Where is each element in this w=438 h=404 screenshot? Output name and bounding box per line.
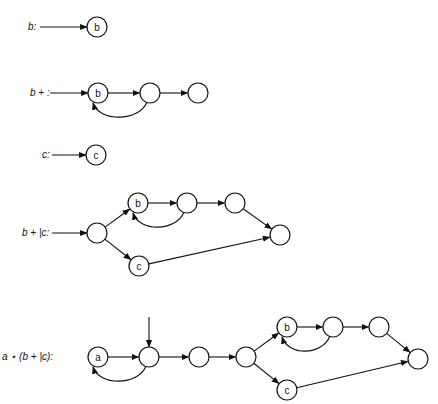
state-node <box>177 193 197 213</box>
state-node <box>369 317 389 337</box>
state-node <box>270 225 290 245</box>
state-label: c <box>137 261 142 272</box>
state-node <box>225 193 245 213</box>
transition-arrow <box>254 363 279 383</box>
state-circle <box>189 347 209 367</box>
state-circle <box>408 349 428 369</box>
loop-back-arrow <box>133 212 184 227</box>
state-label: b <box>95 88 101 99</box>
state-node: c <box>277 380 297 400</box>
transition-arrow <box>105 209 129 227</box>
diagram-b-plus: b + :b <box>30 83 208 117</box>
diagram-label: c: <box>42 149 50 160</box>
diagram-b-plus-or-c: b + |c:bc <box>22 193 290 276</box>
diagram-b: b:b <box>28 17 107 37</box>
state-label: a <box>95 352 101 363</box>
state-circle <box>177 193 197 213</box>
diagrams-root: b:bb + :bc:cb + |c:bca ⋆ (b + |c):abc <box>2 17 428 400</box>
diagram-label: b + : <box>30 87 50 98</box>
transition-arrow <box>149 237 270 264</box>
state-node <box>236 347 256 367</box>
state-circle <box>236 347 256 367</box>
state-circle <box>369 317 389 337</box>
transition-arrow <box>297 361 408 387</box>
state-node <box>140 83 160 103</box>
state-circle <box>323 317 343 337</box>
state-node: b <box>128 193 148 213</box>
state-node <box>87 223 107 243</box>
state-node: b <box>277 317 297 337</box>
state-circle <box>140 83 160 103</box>
state-label: c <box>94 150 99 161</box>
state-node <box>189 347 209 367</box>
state-node <box>139 347 159 367</box>
state-circle <box>139 347 159 367</box>
state-label: b <box>94 22 100 33</box>
state-node <box>323 317 343 337</box>
diagram-label: b + |c: <box>22 227 50 238</box>
diagram-c: c:c <box>42 145 106 165</box>
state-node: c <box>86 145 106 165</box>
state-circle <box>270 225 290 245</box>
state-circle <box>225 193 245 213</box>
transition-arrow <box>387 333 410 352</box>
transition-arrow <box>105 239 131 259</box>
nfa-diagram-canvas: b:bb + :bc:cb + |c:bca ⋆ (b + |c):abc <box>0 0 438 404</box>
state-label: b <box>284 322 290 333</box>
loop-back-arrow <box>93 102 147 117</box>
diagram-a-star-b-plus-or-c: a ⋆ (b + |c):abc <box>2 317 428 400</box>
state-node: a <box>88 347 108 367</box>
state-label: b <box>135 198 141 209</box>
state-node: b <box>88 83 108 103</box>
transition-arrow <box>254 333 278 351</box>
diagram-label: b: <box>28 21 37 32</box>
state-node: b <box>87 17 107 37</box>
state-label: c <box>285 385 290 396</box>
state-circle <box>87 223 107 243</box>
loop-back-arrow <box>93 366 146 381</box>
loop-back-arrow <box>282 336 330 351</box>
transition-arrow <box>243 209 271 229</box>
state-node <box>188 83 208 103</box>
state-circle <box>188 83 208 103</box>
diagram-label: a ⋆ (b + |c): <box>2 351 53 362</box>
state-node <box>408 349 428 369</box>
state-node: c <box>129 256 149 276</box>
